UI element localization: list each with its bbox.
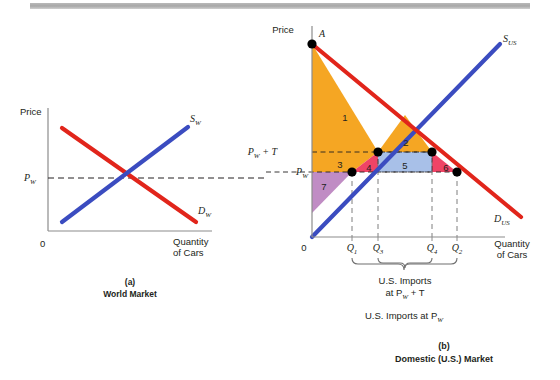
panel-b-point-q4-dot xyxy=(427,147,436,156)
panel-b-point-q3-dot xyxy=(373,147,382,156)
panel-b-outer-bracket-label: U.S. Imports at PW xyxy=(365,310,444,324)
panel-b-inner-bracket-label-line2: at PW + T xyxy=(385,287,424,301)
panel-b-outer-bracket xyxy=(352,258,457,270)
panel-a-price-world-label: PW xyxy=(23,172,37,186)
panel-b-tick-label-q2: Q2 xyxy=(452,242,463,256)
panel-b-supply-label: SUS xyxy=(503,33,517,47)
panel-a-origin-label: 0 xyxy=(40,238,45,249)
panel-b-region-5-label: 5 xyxy=(402,160,407,171)
panel-a-y-axis-label: Price xyxy=(20,106,42,117)
panel-b-region-4-label: 4 xyxy=(366,162,371,173)
panel-b-inner-bracket-label-line1: U.S. Imports xyxy=(379,275,432,286)
panel-a-x-axis-label-line2: of Cars xyxy=(173,247,204,258)
panel-a-world-market: Price PW SW DW 0 Quantity of Cars (a) Wo… xyxy=(20,106,268,299)
panel-b-point-q1-dot xyxy=(347,167,356,176)
panel-b-region-3-label: 3 xyxy=(337,159,342,170)
panel-b-caption-title: Domestic (U.S.) Market xyxy=(395,354,493,364)
panel-b-tick-label-q3: Q3 xyxy=(373,242,384,256)
panel-a-x-axis-label-line1: Quantity xyxy=(173,236,209,247)
panel-b-tick-label-q4: Q4 xyxy=(427,242,438,256)
panel-b-region-1-area xyxy=(312,44,378,152)
panel-b-x-axis-label-line1: Quantity xyxy=(494,238,530,249)
panel-a-supply-label: SW xyxy=(190,113,202,127)
panel-b-point-a-dot xyxy=(307,39,316,48)
panel-a-caption-id: (a) xyxy=(125,277,136,287)
panel-b-region-2-label: 2 xyxy=(403,137,408,148)
panel-b-tick-label-q1: Q1 xyxy=(347,242,358,256)
panel-b-origin-label: 0 xyxy=(301,242,306,253)
panel-b-demand-label: DUS xyxy=(493,213,510,227)
panel-b-region-1-label: 1 xyxy=(342,112,347,123)
panel-b-y-axis-label: Price xyxy=(272,24,294,35)
panel-b-region-7-area xyxy=(312,172,352,213)
panel-b-point-q2-dot xyxy=(452,167,461,176)
panel-b-region-6-label: 6 xyxy=(443,162,448,173)
panel-b-x-axis-label-line2: of Cars xyxy=(497,249,528,260)
panel-b-point-a-label: A xyxy=(318,28,326,39)
panel-b-region-7-label: 7 xyxy=(321,181,326,192)
figure-canvas: Price PW SW DW 0 Quantity of Cars (a) Wo… xyxy=(0,0,560,380)
economics-figure: Price PW SW DW 0 Quantity of Cars (a) Wo… xyxy=(0,0,560,380)
panel-b-price-tariff-label: PW + T xyxy=(247,146,279,160)
panel-b-caption-id: (b) xyxy=(438,341,450,351)
panel-a-caption-title: World Market xyxy=(103,289,157,299)
panel-b-domestic-market: 1 2 3 4 5 6 7 Price A SUS DUS PW + T PW … xyxy=(247,24,530,364)
panel-a-demand-label: DW xyxy=(197,205,212,219)
panel-b-price-world-label: PW xyxy=(295,166,309,180)
